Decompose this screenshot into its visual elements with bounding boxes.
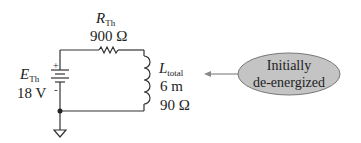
inductor-symbol	[144, 56, 150, 104]
source-subscript: Th	[29, 74, 39, 84]
source-value: 18 V	[17, 85, 46, 101]
battery-minus: -	[54, 81, 58, 97]
inductor-resistance: 90 Ω	[160, 97, 190, 113]
callout-line-2: de-energized	[238, 74, 340, 91]
inductor-subscript: total	[167, 68, 183, 78]
callout-text: Initially de-energized	[238, 57, 340, 91]
resistor-symbol	[99, 47, 118, 53]
wire-top	[60, 47, 144, 56]
callout-arrow	[204, 71, 238, 77]
inductor-inductance: 6 m	[160, 78, 183, 94]
ground-icon	[54, 130, 66, 137]
callout-line-1: Initially	[238, 57, 340, 74]
source-label: ETh	[20, 66, 39, 87]
resistor-symbol-text: R	[96, 10, 105, 26]
source-symbol-text: E	[20, 66, 29, 82]
resistor-value: 900 Ω	[90, 28, 127, 44]
resistor-subscript: Th	[105, 18, 115, 28]
battery-plus: +	[53, 58, 59, 74]
junction-dot	[58, 109, 63, 114]
